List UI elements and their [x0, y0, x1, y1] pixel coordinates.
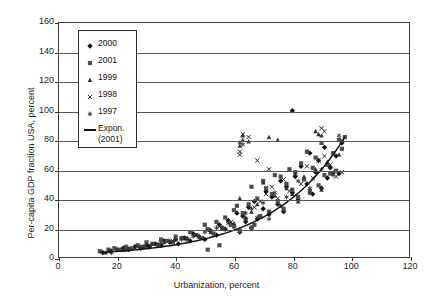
x-tick-label: 120 — [395, 262, 425, 271]
data-point — [270, 192, 274, 196]
data-point — [260, 206, 265, 211]
data-point — [337, 133, 341, 138]
y-tick-label: 120 — [24, 76, 54, 85]
data-point — [322, 173, 326, 177]
square-marker-icon — [84, 55, 96, 67]
gridline-y — [59, 230, 409, 231]
data-point — [299, 182, 303, 186]
y-tick-label: 140 — [24, 47, 54, 56]
legend-label: 1999 — [98, 73, 117, 82]
y-axis-tick-labels: 020406080100120140160 — [20, 22, 54, 258]
data-point — [334, 174, 338, 178]
data-point — [316, 183, 320, 187]
data-point — [188, 230, 192, 234]
star-marker-icon — [84, 106, 96, 118]
data-point — [273, 173, 277, 177]
data-point — [296, 195, 300, 199]
series-1999 — [103, 129, 341, 255]
x-tick-label: 100 — [336, 262, 366, 271]
tick-mark-y — [55, 230, 59, 231]
data-point — [255, 158, 259, 162]
legend-label: 1997 — [98, 107, 117, 116]
y-tick-label: 20 — [24, 224, 54, 233]
line-marker-icon — [84, 123, 96, 135]
data-point — [112, 246, 116, 250]
x-tick-label: 80 — [278, 262, 308, 271]
data-point — [281, 177, 285, 181]
data-point — [267, 135, 272, 139]
legend-item-1999[interactable]: 1999 — [79, 69, 136, 86]
y-tick-label: 80 — [24, 135, 54, 144]
tick-mark-y — [55, 23, 59, 24]
data-point — [203, 223, 207, 227]
data-point — [246, 135, 250, 139]
data-point — [305, 150, 309, 154]
tick-mark-y — [55, 141, 59, 142]
data-point — [235, 204, 239, 208]
chart-legend: 20002001199919981997Expon.(2001) — [78, 30, 137, 148]
x-axis-tick-labels: 020406080100120 — [58, 262, 410, 274]
legend-item-2001[interactable]: 2001 — [79, 52, 136, 69]
data-point — [299, 161, 303, 165]
y-tick-label: 40 — [24, 194, 54, 203]
legend-label: 1998 — [98, 90, 117, 99]
tick-mark-y — [55, 82, 59, 83]
gridline-y — [59, 200, 409, 201]
data-point — [232, 208, 236, 212]
data-point — [249, 185, 253, 189]
data-point — [313, 129, 318, 133]
x-axis-title: Urbanization, percent — [0, 280, 433, 290]
y-tick-label: 60 — [24, 165, 54, 174]
data-point — [267, 217, 271, 222]
legend-item-1997[interactable]: 1997 — [79, 103, 136, 120]
data-point — [284, 182, 288, 186]
tick-mark-y — [55, 200, 59, 201]
x-marker-icon — [84, 89, 96, 101]
tick-mark-y — [55, 53, 59, 54]
data-point — [241, 211, 245, 215]
data-point — [293, 174, 298, 179]
data-point — [206, 248, 210, 252]
legend-item-2000[interactable]: 2000 — [79, 35, 136, 52]
legend-label: 2001 — [98, 56, 117, 65]
data-point — [217, 243, 221, 247]
exponential-trendline — [100, 137, 345, 253]
chart-figure: Per-capita GDP fraction USA, percent 020… — [0, 0, 433, 302]
diamond-marker-icon — [84, 38, 96, 50]
data-point — [322, 145, 327, 150]
legend-item-expon[interactable]: Expon. — [79, 120, 136, 137]
data-point — [270, 185, 274, 189]
x-tick-label: 20 — [102, 262, 132, 271]
data-point — [252, 205, 256, 209]
y-tick-label: 0 — [24, 253, 54, 262]
data-point — [246, 202, 250, 206]
data-point — [340, 147, 344, 151]
legend-item-1998[interactable]: 1998 — [79, 86, 136, 103]
data-point — [322, 129, 326, 133]
data-point — [337, 152, 342, 156]
data-point — [241, 142, 245, 147]
x-tick-label: 40 — [160, 262, 190, 271]
triangle-marker-icon — [84, 72, 96, 84]
data-point — [223, 215, 227, 219]
data-point — [214, 220, 218, 224]
y-tick-label: 160 — [24, 17, 54, 26]
tick-mark-y — [55, 112, 59, 113]
tick-mark-y — [55, 171, 59, 172]
data-point — [322, 154, 326, 158]
data-point — [165, 239, 169, 243]
data-point — [284, 195, 288, 200]
data-point — [238, 153, 242, 157]
gridline-y — [59, 171, 409, 172]
data-point — [264, 186, 268, 190]
y-tick-label: 100 — [24, 106, 54, 115]
legend-label: Expon. — [98, 124, 124, 133]
legend-label: 2000 — [98, 39, 117, 48]
data-point — [311, 166, 315, 170]
x-tick-label: 0 — [43, 262, 73, 271]
x-tick-label: 60 — [219, 262, 249, 271]
data-point — [302, 174, 307, 178]
data-point — [305, 164, 309, 168]
